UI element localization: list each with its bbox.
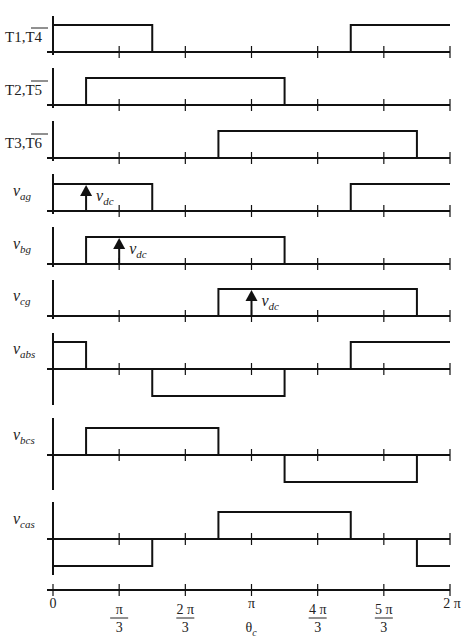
tick-label-1: π3 (110, 602, 128, 635)
x-axis-label: θc (246, 620, 258, 638)
tick-label-0: 0 (50, 596, 57, 611)
vdc-annotation: vdc (246, 290, 280, 316)
tick-label-5: 5 π3 (375, 602, 393, 635)
vdc-label: vdc (262, 292, 280, 312)
panel-vcas: vcas (13, 502, 450, 575)
tick-value: 0 (50, 596, 57, 611)
signal-label: vbg (13, 235, 32, 255)
panel-vbg: vbg (13, 227, 450, 270)
tick-numerator: π (116, 602, 123, 617)
vdc-label: vdc (96, 187, 114, 207)
signal-label: T1,T4 (5, 29, 43, 45)
tick-numerator: 2 π (177, 602, 195, 617)
tick-denominator: 3 (116, 620, 123, 635)
tick-label-3: π (248, 596, 255, 611)
tick-numerator: 4 π (309, 602, 327, 617)
waveform-panels: T1,T4T2,T5T3,T6vagvbgvcgvabsvbcsvcasvdcv… (5, 16, 450, 575)
signal-label: vabs (13, 340, 35, 360)
vdc-annotation: vdc (80, 185, 114, 211)
signal-label: T3,T6 (5, 135, 43, 151)
tick-label-4: 4 π3 (309, 602, 327, 635)
panel-t3t6: T3,T6 (5, 121, 450, 164)
tick-label-2: 2 π3 (176, 602, 194, 635)
signal-label: vag (13, 182, 32, 202)
signal-label: vcg (13, 287, 31, 307)
arrow-head-icon (246, 290, 258, 301)
theta-axis: 0π32 π3π4 π35 π32 πθc (47, 584, 461, 638)
tick-label-6: 2 π (443, 596, 461, 611)
panel-t2t5: T2,T5 (5, 68, 450, 111)
vdc-annotation: vdc (113, 238, 147, 264)
signal-label: vcas (13, 510, 35, 530)
signal-label: vbcs (13, 426, 35, 446)
tick-denominator: 3 (314, 620, 321, 635)
tick-value: 2 π (443, 596, 461, 611)
switching-waveform-diagram: T1,T4T2,T5T3,T6vagvbgvcgvabsvbcsvcasvdcv… (0, 0, 470, 639)
panel-t1t4: T1,T4 (5, 16, 450, 58)
panel-vag: vag (13, 174, 450, 217)
tick-denominator: 3 (182, 620, 189, 635)
tick-denominator: 3 (380, 620, 387, 635)
arrow-head-icon (80, 185, 92, 196)
arrow-head-icon (113, 238, 125, 249)
vdc-label: vdc (129, 240, 147, 260)
panel-vabs: vabs (13, 333, 450, 405)
panel-vcg: vcg (13, 280, 450, 322)
tick-numerator: 5 π (375, 602, 393, 617)
signal-label: T2,T5 (5, 82, 42, 98)
tick-value: π (248, 596, 255, 611)
panel-vbcs: vbcs (13, 418, 450, 490)
